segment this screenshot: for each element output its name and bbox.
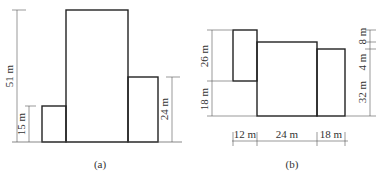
b-dim-24m: 24 m: [276, 128, 299, 140]
a-left-block: [42, 106, 66, 142]
a-dim-15m: 15 m: [15, 112, 27, 135]
b-dim-18m-bottom: 18 m: [320, 128, 343, 140]
b-dim-32m: 32 m: [356, 80, 368, 103]
b-left-block: [233, 30, 257, 81]
a-tall-block: [66, 10, 128, 142]
b-right-block: [317, 49, 345, 116]
b-middle-block: [257, 42, 317, 116]
building-elevation-diagrams: 51 m 15 m 24 m (a) 26 m 18 m 8 m 4 m 32 …: [0, 0, 380, 182]
a-caption: (a): [94, 158, 107, 171]
a-right-block: [128, 77, 158, 142]
b-dim-8m: 8 m: [356, 27, 368, 44]
figure-a: [12, 10, 182, 142]
b-dim-12m: 12 m: [234, 128, 257, 140]
a-dim-24m: 24 m: [158, 97, 170, 120]
b-dim-26m: 26 m: [198, 44, 210, 67]
b-dim-18m-left: 18 m: [198, 87, 210, 110]
a-dim-51m: 51 m: [3, 64, 15, 87]
b-caption: (b): [286, 158, 299, 171]
b-dim-4m: 4 m: [356, 53, 368, 70]
